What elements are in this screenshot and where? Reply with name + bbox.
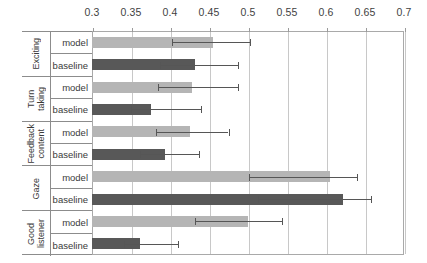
error-bar-baseline-1 — [131, 109, 202, 110]
series-label-column: modelbaseline — [50, 211, 92, 256]
series-label-model: model — [51, 211, 92, 234]
category-label-text: Good listener — [26, 219, 46, 248]
series-label-model: model — [51, 77, 92, 99]
category-label-cell: Good listener — [22, 211, 50, 256]
error-cap-baseline-3-high — [371, 196, 372, 203]
x-tick-label-0.6: 0.6 — [319, 6, 334, 18]
error-cap-model-4-high — [282, 218, 283, 225]
series-label-model: model — [51, 122, 92, 144]
error-bar-baseline-2 — [140, 154, 198, 155]
error-cap-model-0-low — [172, 39, 173, 46]
category-label-cell: Exciting — [22, 32, 50, 76]
series-label-column: modelbaseline — [50, 166, 92, 210]
series-label-model: model — [51, 166, 92, 188]
error-cap-model-4-low — [195, 218, 196, 225]
x-tick-label-0.3: 0.3 — [85, 6, 100, 18]
category-row-0: Excitingmodelbaseline — [22, 32, 92, 77]
x-tick-label-0.55: 0.55 — [277, 6, 298, 18]
series-label-column: modelbaseline — [50, 32, 92, 76]
error-cap-baseline-0-low — [160, 62, 161, 69]
category-row-2: Feedback contentmodelbaseline — [22, 122, 92, 167]
series-label-baseline: baseline — [51, 99, 92, 120]
series-label-column: modelbaseline — [50, 122, 92, 166]
error-cap-baseline-3-low — [258, 196, 259, 203]
error-cap-baseline-2-low — [140, 151, 141, 158]
error-bar-baseline-4 — [124, 244, 178, 245]
category-label-cell: Gaze — [22, 166, 50, 210]
series-label-column: modelbaseline — [50, 77, 92, 121]
error-cap-model-2-high — [229, 129, 230, 136]
error-cap-baseline-4-high — [178, 241, 179, 248]
x-tick-label-0.5: 0.5 — [241, 6, 256, 18]
x-tick-label-0.65: 0.65 — [355, 6, 376, 18]
error-cap-baseline-1-high — [201, 106, 202, 113]
x-tick-mark-0.7 — [405, 28, 406, 32]
category-label-text: Exciting — [31, 38, 41, 70]
error-cap-baseline-2-high — [199, 151, 200, 158]
category-label-text: Feedback content — [26, 124, 46, 164]
category-label-text: Turn taking — [26, 87, 46, 111]
horizontal-bar-chart: 0.30.350.40.450.50.550.60.650.7 Exciting… — [0, 0, 427, 263]
error-bar-baseline-3 — [258, 199, 371, 200]
x-tick-label-0.4: 0.4 — [163, 6, 178, 18]
series-label-baseline: baseline — [51, 54, 92, 75]
error-cap-model-3-low — [249, 174, 250, 181]
x-axis-tick-labels: 0.30.350.40.450.50.550.60.650.7 — [0, 6, 427, 22]
x-tick-label-0.45: 0.45 — [199, 6, 220, 18]
series-label-baseline: baseline — [51, 234, 92, 256]
category-label-cell: Turn taking — [22, 77, 50, 121]
x-tick-label-0.7: 0.7 — [397, 6, 412, 18]
error-cap-model-0-high — [250, 39, 251, 46]
error-bar-baseline-0 — [160, 65, 238, 66]
error-cap-model-1-high — [238, 84, 239, 91]
series-label-model: model — [51, 32, 92, 54]
x-tick-label-0.35: 0.35 — [121, 6, 142, 18]
series-label-baseline: baseline — [51, 144, 92, 165]
category-row-4: Good listenermodelbaseline — [22, 211, 92, 256]
gridline-0.7 — [405, 32, 406, 254]
error-cap-baseline-1-low — [131, 106, 132, 113]
category-label-text: Gaze — [31, 178, 41, 200]
category-row-3: Gazemodelbaseline — [22, 166, 92, 211]
error-bar-model-3 — [249, 177, 357, 178]
error-cap-baseline-4-low — [124, 241, 125, 248]
error-cap-model-1-low — [158, 84, 159, 91]
error-bar-model-1 — [158, 87, 238, 88]
category-label-table: ExcitingmodelbaselineTurn takingmodelbas… — [22, 31, 92, 255]
error-cap-model-2-low — [156, 129, 157, 136]
category-row-1: Turn takingmodelbaseline — [22, 77, 92, 122]
error-cap-baseline-0-high — [238, 62, 239, 69]
category-label-cell: Feedback content — [22, 122, 50, 166]
series-label-baseline: baseline — [51, 189, 92, 210]
error-cap-model-3-high — [357, 174, 358, 181]
error-bar-model-4 — [195, 221, 282, 222]
bars-layer — [92, 31, 404, 255]
error-bar-model-2 — [156, 132, 228, 133]
error-bar-model-0 — [172, 42, 251, 43]
